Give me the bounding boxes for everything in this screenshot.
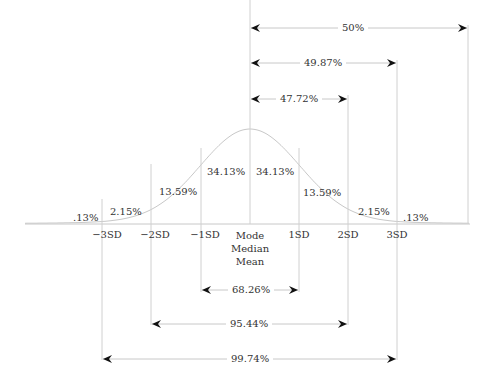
pct-left-1: 34.13% [207,166,245,178]
normal-distribution-diagram [0,0,491,389]
sd-label-minus-3: −3SD [92,229,122,241]
pct-right-tail: .13% [403,212,428,224]
center-labels: Mode Median Mean [231,229,269,268]
label-mean: Mean [231,255,269,268]
pct-left-2: 13.59% [159,186,197,198]
span-label-49-87: 49.87% [300,57,346,69]
pct-right-3: 2.15% [358,206,390,218]
sd-lines [102,0,468,360]
label-mode: Mode [231,229,269,242]
span-label-99-74: 99.74% [227,353,273,365]
span-label-47-72: 47.72% [276,93,322,105]
span-label-95-44: 95.44% [226,318,272,330]
span-label-50: 50% [338,22,368,34]
sd-label-plus-2: 2SD [337,229,358,241]
sd-label-minus-2: −2SD [140,229,170,241]
pct-right-1: 34.13% [256,166,294,178]
sd-label-plus-1: 1SD [288,229,309,241]
pct-left-tail: .13% [73,212,98,224]
span-label-68-26: 68.26% [228,284,274,296]
sd-label-plus-3: 3SD [386,229,407,241]
pct-left-3: 2.15% [110,206,142,218]
sd-label-minus-1: −1SD [190,229,220,241]
bell-curve [25,129,469,223]
pct-right-2: 13.59% [303,187,341,199]
label-median: Median [231,242,269,255]
